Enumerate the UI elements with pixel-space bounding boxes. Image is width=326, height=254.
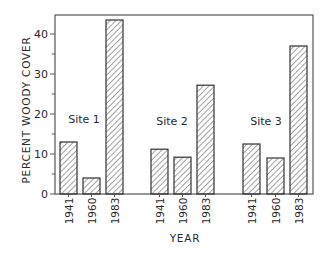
y-tick-label: 10	[34, 148, 48, 161]
x-tick-label: 1983	[200, 198, 212, 225]
bar-site-2-1941	[151, 149, 168, 194]
x-tick-label: 1960	[270, 198, 282, 225]
bar-site-1-1960	[83, 178, 100, 194]
site-label: Site 3	[250, 115, 282, 128]
y-tick-label: 20	[34, 108, 48, 121]
y-tick-label: 0	[41, 188, 48, 201]
x-tick-label: 1941	[63, 198, 75, 225]
x-tick-label: 1941	[154, 198, 166, 225]
y-tick-label: 30	[34, 68, 48, 81]
site-label: Site 2	[156, 115, 188, 128]
bar-site-3-1960	[267, 158, 284, 194]
x-axis: 194119601983194119601983194119601983	[63, 194, 305, 224]
y-axis: 010203040	[34, 28, 55, 201]
bar-site-3-1983	[290, 46, 307, 194]
bar-site-2-1960	[174, 157, 191, 194]
x-tick-label: 1983	[109, 198, 121, 225]
x-tick-label: 1960	[177, 198, 189, 225]
bar-site-2-1983	[197, 85, 214, 194]
x-tick-label: 1983	[293, 198, 305, 225]
bar-chart: 010203040 194119601983194119601983194119…	[0, 0, 326, 254]
site-annotations: Site 1Site 2Site 3	[68, 113, 282, 128]
bars	[60, 20, 307, 194]
x-axis-label: YEAR	[169, 232, 201, 244]
site-label: Site 1	[68, 113, 100, 126]
x-tick-label: 1960	[86, 198, 98, 225]
bar-site-3-1941	[243, 144, 260, 194]
x-tick-label: 1941	[246, 198, 258, 225]
bar-site-1-1983	[106, 20, 123, 194]
y-tick-label: 40	[34, 28, 48, 41]
bar-site-1-1941	[60, 142, 77, 194]
y-axis-label: PERCENT WOODY COVER	[20, 36, 32, 183]
